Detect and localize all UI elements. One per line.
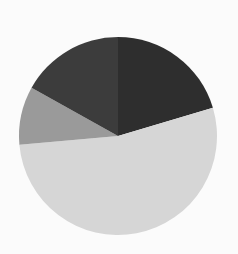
pie-chart-canvas xyxy=(0,0,238,254)
pie-chart xyxy=(0,0,238,254)
